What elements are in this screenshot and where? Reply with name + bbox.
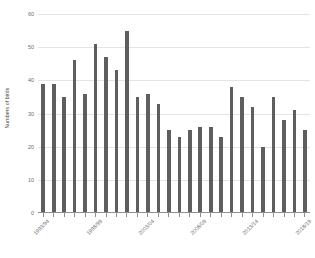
bar[interactable] xyxy=(146,94,150,213)
x-tick-mark xyxy=(252,213,253,217)
x-tick-mark xyxy=(304,213,305,217)
y-tick-label: 60 xyxy=(28,11,34,17)
tick-slot xyxy=(216,213,226,217)
bar[interactable] xyxy=(104,57,108,213)
tick-slot xyxy=(164,213,174,217)
x-tick-mark xyxy=(147,213,148,217)
bar-slot xyxy=(122,14,132,213)
bar[interactable] xyxy=(41,84,45,213)
y-axis-title: Numbers of birds xyxy=(0,0,14,215)
bar[interactable] xyxy=(282,120,286,213)
bar[interactable] xyxy=(209,127,213,213)
x-tick-mark xyxy=(210,213,211,217)
bar[interactable] xyxy=(73,60,77,213)
plot-area xyxy=(38,14,310,213)
bar-slot xyxy=(101,14,111,213)
bar[interactable] xyxy=(251,107,255,213)
bar[interactable] xyxy=(261,147,265,213)
bar[interactable] xyxy=(62,97,66,213)
bar-slot xyxy=(195,14,205,213)
x-axis-tick-marks xyxy=(38,213,310,217)
tick-slot xyxy=(80,213,90,217)
tick-slot xyxy=(59,213,69,217)
bar-slot xyxy=(226,14,236,213)
x-tick-mark xyxy=(231,213,232,217)
bar[interactable] xyxy=(83,94,87,213)
x-tick-mark xyxy=(95,213,96,217)
bar[interactable] xyxy=(157,104,161,213)
bar-slot xyxy=(268,14,278,213)
y-tick-label: 0 xyxy=(31,210,34,216)
x-tick-label: 1993/94 xyxy=(32,218,50,236)
x-tick-label: 1998/99 xyxy=(85,218,103,236)
x-tick-mark xyxy=(200,213,201,217)
bar-slot xyxy=(300,14,310,213)
x-tick-mark xyxy=(85,213,86,217)
bar-slot xyxy=(143,14,153,213)
bar-slot xyxy=(247,14,257,213)
tick-slot xyxy=(247,213,257,217)
x-tick-label: 2013/14 xyxy=(242,218,260,236)
x-tick-mark xyxy=(242,213,243,217)
tick-slot xyxy=(132,213,142,217)
tick-slot xyxy=(237,213,247,217)
tick-slot xyxy=(289,213,299,217)
bar[interactable] xyxy=(167,130,171,213)
bar-slot xyxy=(174,14,184,213)
bar-slot xyxy=(111,14,121,213)
bar-slot xyxy=(164,14,174,213)
tick-slot xyxy=(195,213,205,217)
bar[interactable] xyxy=(303,130,307,213)
bar[interactable] xyxy=(178,137,182,213)
tick-slot xyxy=(206,213,216,217)
tick-slot xyxy=(185,213,195,217)
tick-slot xyxy=(122,213,132,217)
x-tick-mark xyxy=(64,213,65,217)
x-tick-label: 2018/19 xyxy=(294,218,312,236)
y-tick-label: 50 xyxy=(28,44,34,50)
bar[interactable] xyxy=(94,44,98,213)
bar[interactable] xyxy=(125,31,129,213)
bar[interactable] xyxy=(52,84,56,213)
tick-slot xyxy=(143,213,153,217)
tick-slot xyxy=(300,213,310,217)
tick-slot xyxy=(174,213,184,217)
bar-slot xyxy=(279,14,289,213)
bar-slot xyxy=(216,14,226,213)
bar[interactable] xyxy=(240,97,244,213)
bar[interactable] xyxy=(293,110,297,213)
bar[interactable] xyxy=(230,87,234,213)
x-tick-mark xyxy=(106,213,107,217)
bar[interactable] xyxy=(198,127,202,213)
bar[interactable] xyxy=(272,97,276,213)
x-tick-mark xyxy=(168,213,169,217)
bar-slot xyxy=(289,14,299,213)
bar-slot xyxy=(237,14,247,213)
x-axis-tick-labels: 1993/941998/992003/042008/092013/142018/… xyxy=(38,218,310,256)
y-tick-label: 30 xyxy=(28,111,34,117)
x-tick-mark xyxy=(294,213,295,217)
bar[interactable] xyxy=(219,137,223,213)
x-tick-mark xyxy=(158,213,159,217)
bar[interactable] xyxy=(115,70,119,213)
x-tick-mark xyxy=(74,213,75,217)
tick-slot xyxy=(69,213,79,217)
tick-slot xyxy=(268,213,278,217)
tick-slot xyxy=(279,213,289,217)
bar-slot xyxy=(59,14,69,213)
bar-slot xyxy=(153,14,163,213)
y-tick-label: 10 xyxy=(28,177,34,183)
tick-slot xyxy=(153,213,163,217)
bar-slot xyxy=(48,14,58,213)
y-axis-title-text: Numbers of birds xyxy=(4,87,10,128)
bar[interactable] xyxy=(188,130,192,213)
bar[interactable] xyxy=(136,97,140,213)
x-tick-mark xyxy=(53,213,54,217)
x-tick-label: 2008/09 xyxy=(189,218,207,236)
y-tick-label: 20 xyxy=(28,144,34,150)
tick-slot xyxy=(90,213,100,217)
bar-chart: Numbers of birds 0102030405060 1993/9419… xyxy=(0,0,315,258)
bar-slot xyxy=(69,14,79,213)
y-axis-tick-labels: 0102030405060 xyxy=(16,0,36,215)
tick-slot xyxy=(101,213,111,217)
